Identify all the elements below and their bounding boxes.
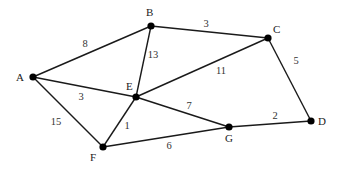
edge-c-d — [268, 38, 311, 121]
edge-e-g — [136, 97, 229, 127]
node-b — [147, 22, 154, 29]
node-label-e: E — [126, 80, 133, 92]
edge-weight-e-f: 1 — [124, 120, 129, 131]
edge-weight-a-b: 8 — [82, 38, 87, 49]
edge-weight-e-g: 7 — [186, 100, 191, 111]
node-a — [29, 73, 36, 80]
graph-diagram: 83133151151762 ABCDEFG — [0, 0, 339, 170]
edge-a-f — [33, 77, 103, 147]
node-label-g: G — [225, 132, 233, 144]
edge-a-b — [33, 26, 151, 77]
node-d — [307, 117, 314, 124]
edge-weight-a-e: 3 — [78, 91, 83, 102]
node-label-b: B — [146, 6, 153, 18]
edge-weight-b-e: 13 — [148, 49, 159, 60]
edge-a-e — [33, 77, 136, 97]
node-label-c: C — [273, 23, 280, 35]
edge-weight-g-d: 2 — [272, 110, 277, 121]
node-f — [99, 143, 106, 150]
edge-weight-b-c: 3 — [203, 18, 208, 29]
node-label-a: A — [16, 71, 24, 83]
edge-e-f — [103, 97, 136, 147]
edge-g-d — [229, 121, 311, 127]
node-c — [264, 34, 271, 41]
edge-weight-a-f: 15 — [51, 116, 62, 127]
node-e — [132, 93, 139, 100]
node-g — [225, 123, 232, 130]
edge-weight-e-c: 11 — [216, 65, 226, 76]
edge-e-c — [136, 38, 268, 97]
nodes-group — [29, 22, 314, 150]
edge-b-e — [136, 26, 151, 97]
edge-b-c — [151, 26, 268, 38]
edges-group — [33, 26, 311, 147]
node-label-f: F — [90, 151, 96, 163]
edge-weight-f-g: 6 — [166, 140, 171, 151]
edge-weight-c-d: 5 — [293, 55, 298, 66]
node-label-d: D — [318, 115, 326, 127]
